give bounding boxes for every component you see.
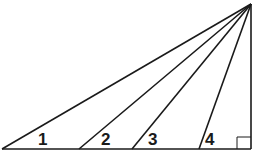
angle-label-4: 4 — [205, 130, 215, 149]
right-angle-marker — [237, 137, 251, 149]
angle-label-2: 2 — [101, 130, 110, 149]
cevian-2 — [132, 4, 251, 149]
angle-label-1: 1 — [38, 130, 47, 149]
triangle-diagram: 1 2 3 4 — [0, 0, 261, 154]
hypotenuse — [2, 4, 251, 149]
angle-label-3: 3 — [148, 130, 157, 149]
